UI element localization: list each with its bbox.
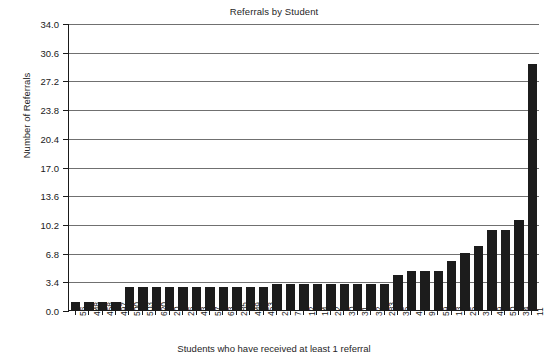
bar	[286, 284, 295, 310]
x-axis-tick-label: 57	[213, 307, 223, 316]
x-axis-tick-label: 31	[360, 307, 370, 316]
x-axis-tick	[236, 311, 237, 315]
x-axis-tick-label: 32	[374, 307, 384, 316]
bar	[407, 271, 416, 310]
x-axis-tick	[88, 311, 89, 315]
x-axis-tick-label: 25	[468, 307, 478, 316]
bar	[434, 271, 443, 310]
y-axis-tick-label: 10.2	[25, 220, 59, 231]
bar	[487, 230, 496, 310]
y-axis-tick-label: 34.0	[25, 19, 59, 30]
x-axis-tick-label: 9	[427, 311, 437, 316]
x-axis-tick-label: 20	[172, 307, 182, 316]
x-axis-tick-label: 4	[414, 311, 424, 316]
x-axis-tick	[142, 311, 143, 315]
x-axis-tick	[330, 311, 331, 315]
x-axis-tick-label: 59	[441, 307, 451, 316]
x-axis-tick	[437, 311, 438, 315]
x-axis-tick	[209, 311, 210, 315]
x-axis-tick	[518, 311, 519, 315]
bar	[420, 271, 429, 310]
x-axis-tick	[464, 311, 465, 315]
x-axis-tick-label: 448	[92, 302, 102, 316]
x-axis-tick-label: 34	[521, 307, 531, 316]
x-axis-tick-label: 50	[508, 307, 518, 316]
x-axis-tick-label: 285	[239, 302, 249, 316]
x-axis-tick-label: 12	[307, 307, 317, 316]
x-axis-tick-label: 503	[145, 302, 155, 316]
x-axis-tick-label: 13	[454, 307, 464, 316]
x-axis-title: Students who have received at least 1 re…	[0, 343, 548, 354]
x-axis-tick-label: 500	[132, 302, 142, 316]
y-axis-tick-label: 27.2	[25, 76, 59, 87]
x-axis-tick-label: 22	[333, 307, 343, 316]
x-axis-tick	[102, 311, 103, 315]
x-axis-tick-label: 56	[78, 307, 88, 316]
x-axis-tick	[357, 311, 358, 315]
bar	[528, 64, 537, 310]
plot-area: 0.03.46.810.213.617.020.423.827.230.634.…	[68, 24, 538, 311]
x-axis-tick	[370, 311, 371, 315]
x-axis-tick	[249, 311, 250, 315]
x-axis-tick-label: 497	[119, 302, 129, 316]
x-axis-tick-label: 449	[253, 302, 263, 316]
bar	[474, 246, 483, 310]
x-axis-tick-label: 7	[293, 311, 303, 316]
x-axis-tick	[155, 311, 156, 315]
x-axis-tick	[222, 311, 223, 315]
chart-container: Referrals by Student Number of Referrals…	[0, 0, 548, 361]
x-axis-tick	[128, 311, 129, 315]
x-axis-tick-label: 30	[347, 307, 357, 316]
x-axis-tick-label: 11	[535, 307, 545, 316]
bar	[460, 253, 469, 310]
x-axis-tick	[451, 311, 452, 315]
x-axis-tick	[196, 311, 197, 315]
y-axis-tick-label: 6.8	[25, 249, 59, 260]
x-axis-tick	[263, 311, 264, 315]
x-axis-tick-label: 283	[387, 302, 397, 316]
x-axis-tick-label: 63	[226, 307, 236, 316]
x-axis-tick	[410, 311, 411, 315]
bar	[501, 230, 510, 310]
x-axis-tick	[384, 311, 385, 315]
y-axis-tick-label: 23.8	[25, 105, 59, 116]
y-axis-tick-label: 30.6	[25, 48, 59, 59]
x-axis-tick	[531, 311, 532, 315]
x-axis-tick-label: 26	[186, 307, 196, 316]
x-axis-tick	[75, 311, 76, 315]
x-axis-tick-label: 43	[199, 307, 209, 316]
x-axis-tick-label: 453	[266, 302, 276, 316]
bar	[447, 261, 456, 310]
x-axis-tick-label: 35	[401, 307, 411, 316]
x-axis-tick-label: 3	[481, 311, 491, 316]
x-axis-tick	[276, 311, 277, 315]
x-axis-tick	[504, 311, 505, 315]
x-axis-tick	[478, 311, 479, 315]
chart-title: Referrals by Student	[0, 6, 548, 17]
x-axis-tick	[290, 311, 291, 315]
x-axis-tick	[182, 311, 183, 315]
bars-group	[69, 23, 539, 310]
y-axis-tick-label: 0.0	[25, 306, 59, 317]
x-axis-tick	[343, 311, 344, 315]
x-axis-tick	[169, 311, 170, 315]
x-axis-tick-label: 620	[159, 302, 169, 316]
bar	[514, 220, 523, 310]
x-axis-tick	[491, 311, 492, 315]
x-axis-tick	[316, 311, 317, 315]
x-axis-tick	[397, 311, 398, 315]
x-axis-tick-label: 2	[280, 311, 290, 316]
x-axis-tick-label: 49	[495, 307, 505, 316]
y-axis-tick-label: 13.6	[25, 191, 59, 202]
x-axis-tick-label: 458	[105, 302, 115, 316]
x-axis-tick	[303, 311, 304, 315]
y-axis-tick-label: 20.4	[25, 134, 59, 145]
y-axis-tick-label: 3.4	[25, 277, 59, 288]
y-axis-tick-label: 17.0	[25, 163, 59, 174]
x-axis-tick-label: 14	[320, 307, 330, 316]
x-axis-tick	[115, 311, 116, 315]
x-axis-tick	[424, 311, 425, 315]
